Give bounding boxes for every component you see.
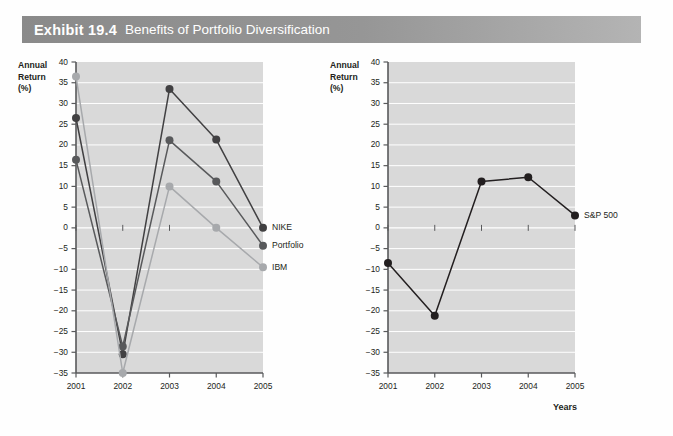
series-line bbox=[76, 77, 263, 373]
x-tick-label: 2004 bbox=[510, 381, 546, 391]
data-point-marker bbox=[571, 211, 579, 219]
data-point-marker bbox=[524, 173, 532, 181]
x-tick-label: 2001 bbox=[58, 381, 94, 391]
data-point-marker bbox=[259, 242, 267, 250]
x-tick-label: 2003 bbox=[152, 381, 188, 391]
y-tick-label: −10 bbox=[358, 264, 380, 274]
exhibit-page: Exhibit 19.4 Benefits of Portfolio Diver… bbox=[0, 0, 673, 436]
y-tick-label: −5 bbox=[46, 243, 68, 253]
exhibit-title: Benefits of Portfolio Diversification bbox=[125, 22, 330, 37]
y-tick-label: −25 bbox=[358, 326, 380, 336]
series-label-portfolio: Portfolio bbox=[272, 240, 304, 250]
y-tick-label: −20 bbox=[358, 305, 380, 315]
series-line bbox=[76, 89, 263, 354]
y-tick-label: 35 bbox=[46, 77, 68, 87]
data-point-marker bbox=[166, 182, 174, 190]
y-tick-label: 0 bbox=[46, 222, 68, 232]
y-tick-label: 25 bbox=[358, 119, 380, 129]
exhibit-header-bar: Exhibit 19.4 Benefits of Portfolio Diver… bbox=[22, 16, 641, 43]
x-tick-label: 2004 bbox=[198, 381, 234, 391]
x-axis-caption: Years bbox=[553, 402, 577, 412]
data-point-marker bbox=[259, 263, 267, 271]
series-line bbox=[388, 177, 575, 315]
y-tick-label: 40 bbox=[46, 57, 68, 67]
y-tick-label: 10 bbox=[46, 181, 68, 191]
y-tick-label: 30 bbox=[46, 98, 68, 108]
y-axis-title-line-3: (%) bbox=[330, 83, 359, 95]
data-point-marker bbox=[212, 224, 220, 232]
x-tick-label: 2005 bbox=[557, 381, 593, 391]
x-tick-label: 2001 bbox=[370, 381, 406, 391]
y-axis-title-right: Annual Return (%) bbox=[330, 60, 359, 95]
data-point-marker bbox=[119, 342, 127, 350]
data-point-marker bbox=[72, 114, 80, 122]
y-tick-label: 15 bbox=[46, 160, 68, 170]
data-point-marker bbox=[166, 136, 174, 144]
y-axis-title-line-1: Annual bbox=[18, 60, 47, 72]
plot-svg-right bbox=[388, 62, 615, 403]
data-point-marker bbox=[212, 177, 220, 185]
exhibit-number: Exhibit 19.4 bbox=[34, 22, 117, 38]
y-axis-title-line-1: Annual bbox=[330, 60, 359, 72]
y-tick-label: −25 bbox=[46, 326, 68, 336]
y-tick-label: 15 bbox=[358, 160, 380, 170]
y-tick-label: 10 bbox=[358, 181, 380, 191]
y-tick-label: −10 bbox=[46, 264, 68, 274]
y-tick-label: −5 bbox=[358, 243, 380, 253]
y-tick-label: −30 bbox=[46, 347, 68, 357]
y-tick-label: −30 bbox=[358, 347, 380, 357]
data-point-marker bbox=[166, 85, 174, 93]
y-tick-label: 0 bbox=[358, 222, 380, 232]
data-point-marker bbox=[72, 156, 80, 164]
plot-svg-left bbox=[76, 62, 303, 403]
data-point-marker bbox=[259, 224, 267, 232]
data-point-marker bbox=[72, 73, 80, 81]
y-tick-label: −20 bbox=[46, 305, 68, 315]
x-tick-label: 2003 bbox=[464, 381, 500, 391]
y-tick-label: 20 bbox=[46, 139, 68, 149]
y-tick-label: −15 bbox=[358, 285, 380, 295]
y-tick-label: −15 bbox=[46, 285, 68, 295]
series-label-s-p-500: S&P 500 bbox=[584, 210, 618, 220]
y-tick-label: 25 bbox=[46, 119, 68, 129]
x-tick-label: 2005 bbox=[245, 381, 281, 391]
series-label-ibm: IBM bbox=[272, 262, 287, 272]
data-point-marker bbox=[431, 312, 439, 320]
data-point-marker bbox=[478, 177, 486, 185]
y-tick-label: 40 bbox=[358, 57, 380, 67]
x-tick-label: 2002 bbox=[105, 381, 141, 391]
y-tick-label: 5 bbox=[358, 202, 380, 212]
y-axis-title-left: Annual Return (%) bbox=[18, 60, 47, 95]
y-tick-label: 5 bbox=[46, 202, 68, 212]
series-label-nike: NIKE bbox=[272, 222, 292, 232]
data-point-marker bbox=[384, 259, 392, 267]
y-axis-title-line-2: Return bbox=[18, 72, 47, 84]
data-point-marker bbox=[119, 369, 127, 377]
y-axis-title-line-3: (%) bbox=[18, 83, 47, 95]
data-point-marker bbox=[212, 136, 220, 144]
y-axis-title-line-2: Return bbox=[330, 72, 359, 84]
y-tick-label: −35 bbox=[46, 368, 68, 378]
y-tick-label: 20 bbox=[358, 139, 380, 149]
y-tick-label: 35 bbox=[358, 77, 380, 87]
x-tick-label: 2002 bbox=[417, 381, 453, 391]
y-tick-label: 30 bbox=[358, 98, 380, 108]
y-tick-label: −35 bbox=[358, 368, 380, 378]
